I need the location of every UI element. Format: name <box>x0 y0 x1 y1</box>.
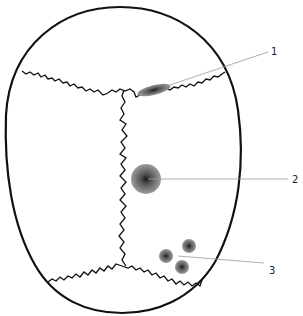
sagittal-suture <box>119 90 127 266</box>
label-2: 2 <box>292 174 298 185</box>
label-1: 1 <box>271 46 277 57</box>
lesion-small-2 <box>182 239 196 253</box>
lesion-small-1 <box>159 249 173 263</box>
label-3: 3 <box>269 265 275 276</box>
leader-line-3 <box>178 256 264 263</box>
skull-diagram: 1 2 3 <box>0 0 303 316</box>
lesion-small-3 <box>175 260 189 274</box>
lesion-elongated <box>136 81 171 99</box>
